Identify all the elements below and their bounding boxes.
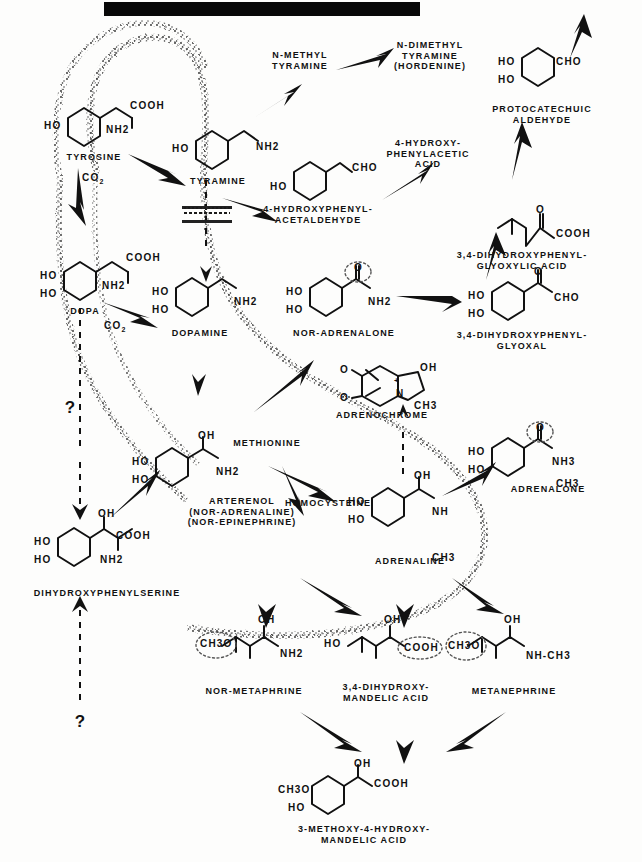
label-metanephrine: METANEPHRINE	[452, 686, 576, 697]
structure-protocatechuic-aldehyde	[522, 48, 554, 86]
group-oh: OH	[420, 362, 437, 374]
group-ch3o: CH3O	[448, 640, 481, 652]
group-ho: HO	[270, 181, 287, 193]
label-protocatechuic-aldehyde: PROTOCATECHUIC ALDEHYDE	[478, 104, 606, 125]
group-cooh: COOH	[374, 778, 409, 790]
group-ho: HO	[34, 536, 51, 548]
group-n: N	[396, 388, 404, 400]
group-oh: OH	[198, 430, 215, 442]
label-methionine: METHIONINE	[214, 438, 320, 449]
group-oh: OH	[98, 508, 115, 520]
group-nh2: NH2	[368, 296, 392, 308]
group-oh: OH	[384, 614, 401, 626]
group-nh2: NH2	[256, 141, 280, 153]
group-o: O	[536, 422, 545, 434]
group-ho: HO	[468, 290, 485, 302]
label-adrenalone: ADRENALONE	[496, 484, 600, 495]
group-ho: HO	[132, 474, 149, 486]
group-ho: HO	[286, 304, 303, 316]
label-dopamine: DOPAMINE	[152, 328, 248, 339]
group-ho: HO	[152, 304, 169, 316]
label-nor-metaphrine: NOR-METAPHRINE	[192, 686, 316, 697]
arrow-noradrenalone-to-glyoxal	[396, 290, 462, 312]
group-nh2: NH2	[100, 554, 124, 566]
label-co2-dopa: CO2	[104, 320, 127, 334]
pathway-canvas	[0, 0, 642, 862]
group-oh: OH	[258, 614, 275, 626]
illegible-annotation	[184, 207, 230, 223]
group-plus: +	[394, 376, 400, 385]
arrow-dopamine-to-nor-adrenalone	[254, 360, 314, 412]
arrow-tyramine-to-n-methyl-tyramine	[238, 84, 302, 128]
group-nh: NH	[432, 506, 449, 518]
group-ho: HO	[324, 638, 341, 650]
label-dihydroxyphenyl-glyoxal: 3,4-DIHYDROXYPHENYL- GLYOXAL	[438, 330, 606, 351]
group-cooh: COOH	[130, 100, 165, 112]
group-ho: HO	[348, 514, 365, 526]
group-ho: HO	[288, 802, 305, 814]
group-ho: HO	[468, 464, 485, 476]
group-nh2: NH2	[216, 466, 240, 478]
label-methoxy-hydroxy-mandelic-acid: 3-METHOXY-4-HYDROXY- MANDELIC ACID	[272, 824, 456, 845]
group-ho: HO	[34, 554, 51, 566]
label-dopa: DOPA	[56, 306, 114, 317]
group-o: O	[536, 204, 545, 216]
pathway-figure: HO COOH NH2 HO NH2 HO CHO HO HO CHO HO H…	[0, 0, 642, 862]
arrow-metanephrine-to-vma	[446, 712, 506, 752]
group-nh2: NH2	[280, 648, 304, 660]
group-o: O	[340, 364, 349, 376]
label-dihydroxyphenylserine: DIHYDROXYPHENYLSERINE	[14, 588, 200, 599]
structure-methoxy-hydroxy-mandelic-acid	[312, 765, 372, 814]
label-hydroxyphenylacetic-acid: 4-HYDROXY- PHENYLACETIC ACID	[372, 138, 484, 170]
label-hydroxyphenylacetaldehyde: 4-HYDROXYPHENYL- ACETALDEHYDE	[244, 204, 392, 225]
group-ho: HO	[152, 286, 169, 298]
structure-dihydroxyphenyl-glyoxylic-acid	[498, 214, 554, 246]
label-adrenaline: ADRENALINE	[362, 556, 458, 567]
group-ho: HO	[44, 120, 61, 132]
label-tyrosine: TYROSINE	[40, 152, 148, 163]
group-oh: OH	[354, 758, 371, 770]
group-ho: HO	[286, 286, 303, 298]
question-mark-upper: ?	[62, 398, 78, 418]
group-cho: CHO	[554, 292, 580, 304]
group-ho: HO	[468, 446, 485, 458]
group-ho: HO	[468, 308, 485, 320]
group-nh2: NH2	[234, 296, 258, 308]
group-ho: HO	[498, 56, 515, 68]
arrow-glyoxylic-to-protocatechuic	[512, 122, 532, 180]
label-tyramine: TYRAMINE	[172, 176, 264, 187]
group-nh3: NH3	[552, 456, 576, 468]
group-oh: OH	[504, 614, 521, 626]
group-ch3o: CH3O	[200, 638, 233, 650]
group-ho: HO	[172, 143, 189, 155]
group-ho: HO	[132, 456, 149, 468]
structure-hydroxyphenylacetaldehyde	[294, 162, 352, 200]
label-dihydroxyphenyl-glyoxylic-acid: 3,4-DIHYDROXYPHENYL- GLYOXYLIC ACID	[438, 250, 606, 271]
arrow-protocatechuic-exit	[570, 14, 592, 58]
structure-dihydroxyphenyl-glyoxal	[492, 270, 552, 320]
group-cooh: COOH	[116, 530, 151, 542]
group-ho: HO	[498, 74, 515, 86]
arrow-nor-metaphrine-to-vma	[300, 712, 362, 752]
label-homocysteine: HOMOCYSTEINE	[272, 498, 384, 509]
label-nor-adrenalone: NOR-ADRENALONE	[280, 328, 408, 339]
label-co2-tyrosine: CO2	[82, 172, 105, 186]
label-n-methyl-tyramine: N-METHYL TYRAMINE	[250, 50, 350, 71]
group-oh: OH	[414, 470, 431, 482]
group-nh2: NH2	[102, 280, 126, 292]
group-cooh: COOH	[404, 642, 439, 654]
group-cho: CHO	[556, 56, 582, 68]
group-cooh: COOH	[556, 228, 591, 240]
group-ho: HO	[40, 288, 57, 300]
group-ch3o: CH3O	[278, 784, 311, 796]
group-o: O	[354, 262, 363, 274]
group-nh2: NH2	[106, 124, 130, 136]
arrow-mandelic-to-vma	[396, 716, 414, 764]
arrow-arterenol-to-mandelic	[300, 578, 362, 616]
label-n-dimethyl-tyramine: N-DIMETHYL TYRAMINE (HORDENINE)	[374, 40, 486, 72]
label-adrenochrome: ADRENOCHROME	[326, 410, 438, 421]
group-cooh: COOH	[126, 252, 161, 264]
question-mark-lower: ?	[72, 712, 88, 732]
group-nh-ch3: NH-CH3	[526, 650, 571, 662]
arrow-adrenaline-to-metanephrine	[452, 578, 504, 614]
